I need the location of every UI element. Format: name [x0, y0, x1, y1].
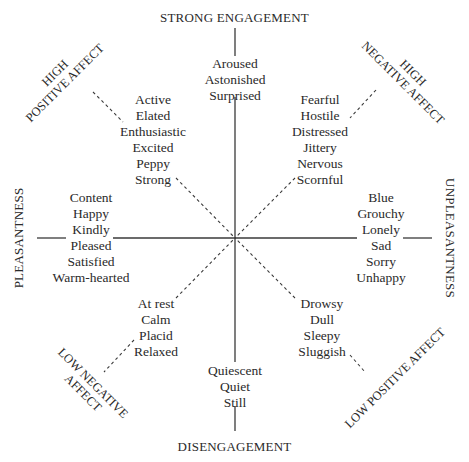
dashed-low-negative-outer: [104, 340, 134, 372]
emotion-term: Active: [120, 92, 186, 108]
emotion-term: Excited: [120, 140, 186, 156]
emotion-term: Enthusiastic: [120, 124, 186, 140]
emotion-term: Dull: [298, 312, 345, 328]
emotion-term: Sleepy: [298, 328, 345, 344]
axis-label-top: STRONG ENGAGEMENT: [0, 11, 469, 24]
emotion-term: Fearful: [292, 92, 348, 108]
emotion-term: Still: [208, 395, 262, 411]
cluster-low-positive-affect: Drowsy Dull Sleepy Sluggish: [298, 296, 345, 360]
emotion-term: Happy: [53, 206, 130, 222]
cluster-pleasantness: Content Happy Kindly Pleased Satisfied W…: [53, 190, 130, 286]
emotion-term: Sluggish: [298, 344, 345, 360]
emotion-term: Quiescent: [208, 363, 262, 379]
dashed-high-negative-outer: [350, 90, 376, 118]
cluster-disengagement: Quiescent Quiet Still: [208, 363, 262, 411]
emotion-term: Surprised: [205, 88, 266, 104]
emotion-term: Sorry: [356, 254, 406, 270]
emotion-term: Placid: [134, 328, 178, 344]
emotion-term: Drowsy: [298, 296, 345, 312]
emotion-term: Aroused: [205, 56, 266, 72]
emotion-term: Warm-hearted: [53, 270, 130, 286]
axis-label-bottom: DISENGAGEMENT: [0, 440, 469, 453]
dashed-high-negative-inner: [235, 178, 295, 238]
dashed-low-positive-outer: [350, 355, 365, 372]
emotion-term: Content: [53, 190, 130, 206]
cluster-strong-engagement: Aroused Astonished Surprised: [205, 56, 266, 104]
axis-label-left: PLEASANTNESS: [12, 188, 25, 289]
dashed-low-negative-inner: [176, 238, 235, 298]
emotion-term: Jittery: [292, 140, 348, 156]
emotion-term: Distressed: [292, 124, 348, 140]
emotion-term: Elated: [120, 108, 186, 124]
emotion-term: Relaxed: [134, 344, 178, 360]
emotion-term: Satisfied: [53, 254, 130, 270]
emotion-term: Scornful: [292, 172, 348, 188]
emotion-term: Astonished: [205, 72, 266, 88]
emotion-term: Lonely: [356, 222, 406, 238]
emotion-term: Grouchy: [356, 206, 406, 222]
emotion-term: At rest: [134, 296, 178, 312]
dashed-high-positive-outer: [93, 92, 123, 122]
cluster-low-negative-affect: At rest Calm Placid Relaxed: [134, 296, 178, 360]
emotion-term: Sad: [356, 238, 406, 254]
emotion-term: Kindly: [53, 222, 130, 238]
emotion-term: Nervous: [292, 156, 348, 172]
cluster-high-positive-affect: Active Elated Enthusiastic Excited Peppy…: [120, 92, 186, 188]
emotion-term: Strong: [120, 172, 186, 188]
emotion-term: Blue: [356, 190, 406, 206]
emotion-term: Quiet: [208, 379, 262, 395]
emotion-term: Unhappy: [356, 270, 406, 286]
emotion-term: Pleased: [53, 238, 130, 254]
emotion-term: Peppy: [120, 156, 186, 172]
emotion-term: Hostile: [292, 108, 348, 124]
cluster-unpleasantness: Blue Grouchy Lonely Sad Sorry Unhappy: [356, 190, 406, 286]
emotion-term: Calm: [134, 312, 178, 328]
dashed-low-positive-inner: [235, 238, 295, 298]
axis-label-right: UNPLEASANTNESS: [444, 178, 457, 298]
cluster-high-negative-affect: Fearful Hostile Distressed Jittery Nervo…: [292, 92, 348, 188]
